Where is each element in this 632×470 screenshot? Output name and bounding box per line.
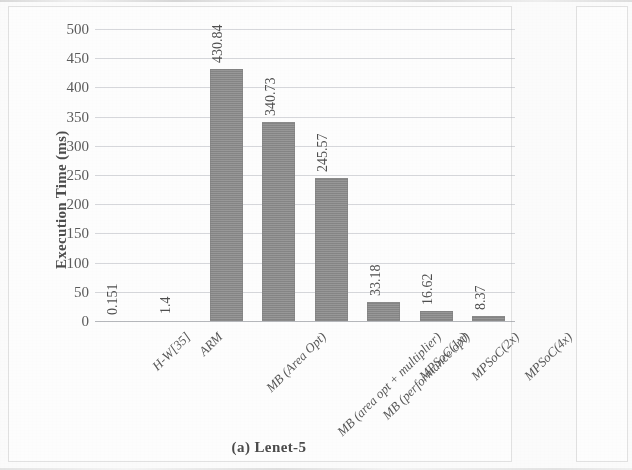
scan-edge-top bbox=[0, 0, 632, 2]
bar-value-label: 8.37 bbox=[473, 286, 489, 311]
x-axis-tick-label: MPSoC(2x) bbox=[468, 329, 523, 384]
bar[interactable] bbox=[367, 302, 400, 321]
y-axis-tick-label: 350 bbox=[47, 108, 89, 125]
chart-panel-a: Execution Time (ms) 50045040035030025020… bbox=[8, 6, 512, 462]
y-axis-tick-label: 400 bbox=[47, 79, 89, 96]
y-axis-tick-label: 200 bbox=[47, 196, 89, 213]
y-axis-tick-label: 500 bbox=[47, 21, 89, 38]
x-axis-tick-label: MB (Area Opt) bbox=[263, 329, 330, 396]
bar[interactable] bbox=[315, 178, 348, 321]
plot-area: 0.1511.4430.84340.73245.5733.1816.628.37 bbox=[95, 29, 515, 321]
bar-group: 340.73 bbox=[262, 29, 295, 321]
x-axis-tick-label: ARM bbox=[196, 329, 226, 359]
bar-value-label: 245.57 bbox=[315, 133, 331, 172]
bar-value-label: 340.73 bbox=[263, 78, 279, 117]
y-axis-tick-label: 0 bbox=[47, 313, 89, 330]
y-axis-tick-label: 300 bbox=[47, 137, 89, 154]
y-axis-tick-label: 250 bbox=[47, 167, 89, 184]
figure-caption: (a) Lenet-5 bbox=[17, 439, 521, 456]
axis-baseline bbox=[95, 321, 515, 322]
y-axis-tick-label: 50 bbox=[47, 283, 89, 300]
bar[interactable] bbox=[420, 311, 453, 321]
y-axis-tick-label: 150 bbox=[47, 225, 89, 242]
bar-value-label: 430.84 bbox=[210, 25, 226, 64]
x-axis-tick-label: MPSoC(4x) bbox=[521, 329, 576, 384]
chart-panel-b: Execution Time (ms) bbox=[576, 6, 628, 462]
bar[interactable] bbox=[262, 122, 295, 321]
bar-value-label: 1.4 bbox=[158, 297, 174, 315]
bar-group: 0.151 bbox=[105, 29, 138, 321]
bar-group: 245.57 bbox=[315, 29, 348, 321]
bar-group: 1.4 bbox=[157, 29, 190, 321]
x-axis-category-labels: H-W[35]ARMMB (Area Opt)MB (area opt + mu… bbox=[95, 323, 515, 443]
x-axis-tick-label: H-W[35] bbox=[149, 329, 194, 374]
bar-value-label: 33.18 bbox=[368, 264, 384, 296]
bar[interactable] bbox=[472, 316, 505, 321]
bar-group: 16.62 bbox=[420, 29, 453, 321]
bar-group: 33.18 bbox=[367, 29, 400, 321]
bar-value-label: 0.151 bbox=[105, 283, 121, 315]
bar[interactable] bbox=[210, 69, 243, 321]
y-axis-tick-labels: 500450400350300250200150100500 bbox=[43, 29, 89, 321]
y-axis-tick-label: 100 bbox=[47, 254, 89, 271]
bar-group: 430.84 bbox=[210, 29, 243, 321]
bar-value-label: 16.62 bbox=[420, 274, 436, 306]
figure-page: Execution Time (ms) 50045040035030025020… bbox=[0, 0, 632, 470]
y-axis-tick-label: 450 bbox=[47, 50, 89, 67]
bar-group: 8.37 bbox=[472, 29, 505, 321]
